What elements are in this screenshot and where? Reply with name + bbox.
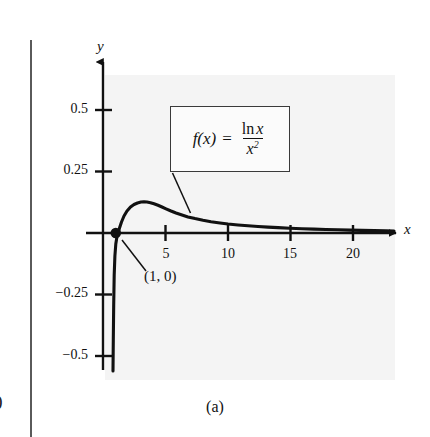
point-annotation-label: (1, 0) bbox=[144, 268, 177, 285]
formula-left-hand-side: f(x) bbox=[193, 129, 217, 149]
x-tick-label-2: 15 bbox=[270, 246, 310, 262]
x-tick-label-1: 10 bbox=[208, 246, 248, 262]
figure-panel-a: 0 bbox=[0, 0, 430, 437]
y-tick-label-3: −0.5 bbox=[12, 347, 88, 363]
formula-equals-sign: = bbox=[221, 129, 233, 149]
formula-denominator: x2 bbox=[243, 138, 263, 158]
point-leader-line bbox=[122, 240, 146, 271]
y-tick-label-0: 0.5 bbox=[18, 101, 88, 117]
formula-numerator: lnx bbox=[238, 120, 268, 138]
figure-caption: (a) bbox=[0, 398, 430, 416]
x-axis bbox=[86, 225, 396, 241]
y-axis-label: y bbox=[97, 38, 104, 55]
formula-fraction: lnx x2 bbox=[238, 120, 268, 158]
formula-leader-line bbox=[173, 173, 191, 213]
y-tick-label-1: 0.25 bbox=[18, 162, 88, 178]
formula-denominator-exponent: 2 bbox=[254, 139, 259, 150]
y-tick-label-2: −0.25 bbox=[12, 285, 88, 301]
formula-numerator-variable: x bbox=[254, 120, 263, 137]
point-marker-1-0 bbox=[111, 228, 122, 239]
y-axis bbox=[95, 62, 112, 370]
x-tick-label-0: 5 bbox=[146, 246, 186, 262]
plot-canvas bbox=[0, 0, 430, 437]
x-axis-label: x bbox=[404, 221, 411, 238]
formula-ln-operator: ln bbox=[242, 120, 254, 137]
formula-denominator-variable: x bbox=[247, 141, 254, 158]
x-tick-label-3: 20 bbox=[333, 246, 373, 262]
formula-callout-box: f(x) = lnx x2 bbox=[170, 106, 290, 172]
formula-expression: f(x) = lnx x2 bbox=[193, 120, 268, 158]
